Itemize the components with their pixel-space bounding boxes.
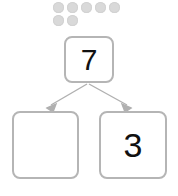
circle-counter-icon	[95, 2, 106, 13]
counter-group	[53, 2, 123, 28]
total-box-value: 7	[81, 45, 98, 75]
total-box[interactable]: 7	[64, 36, 114, 83]
circle-counter-icon	[53, 15, 64, 26]
number-bond-diagram: 7 3	[0, 0, 178, 196]
part-box-left[interactable]	[12, 111, 79, 179]
circle-counter-icon	[53, 2, 64, 13]
arrow-to-left-part-line	[51, 84, 87, 105]
part-box-right[interactable]: 3	[99, 111, 167, 179]
counter-row-top	[53, 2, 123, 15]
circle-counter-icon	[67, 2, 78, 13]
arrow-to-right-part-line	[89, 84, 127, 105]
circle-counter-icon	[81, 2, 92, 13]
counter-row-bottom	[53, 15, 123, 28]
circle-counter-icon	[67, 15, 78, 26]
circle-counter-icon	[109, 2, 120, 13]
part-box-right-value: 3	[124, 128, 143, 162]
